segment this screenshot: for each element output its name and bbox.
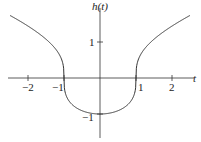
x-tick-label: −2 (22, 82, 34, 93)
x-axis-label: t (193, 73, 196, 84)
x-tick-label: −1 (52, 82, 64, 93)
y-tick-label: 1 (89, 37, 95, 48)
y-tick-label: −1 (82, 112, 94, 123)
y-axis-label: h(t) (92, 1, 108, 12)
plot-area (0, 0, 201, 142)
x-tick-label: 1 (138, 82, 144, 93)
x-tick-label: 2 (169, 82, 175, 93)
